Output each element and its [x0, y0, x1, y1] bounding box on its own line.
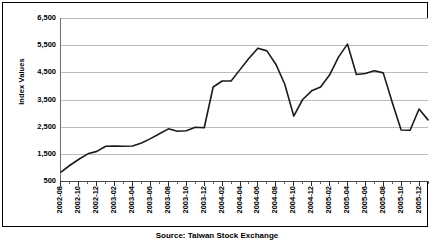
x-tick-mark — [213, 181, 214, 184]
x-tick-mark — [392, 181, 393, 184]
y-axis-tick-labels: 5001,5002,5003,5004,5005,5006,500 — [18, 14, 56, 185]
x-tick-mark — [374, 181, 375, 184]
series-polyline — [61, 44, 428, 172]
x-tick-label: 2003-02 — [110, 186, 118, 230]
x-tick-mark — [266, 181, 267, 184]
x-tick-label: 2002-10 — [74, 186, 82, 230]
x-tick-label: 2002-08 — [56, 186, 64, 230]
x-tick-label: 2003-04 — [128, 186, 136, 230]
y-tick-label: 500 — [18, 177, 56, 185]
x-tick-mark — [123, 181, 124, 184]
x-tick-mark — [231, 181, 232, 184]
x-tick-label: 2005-08 — [379, 186, 387, 230]
x-axis-tick-labels: 2002-082002-102002-122003-022003-042003-… — [60, 186, 428, 228]
x-tick-label: 2002-12 — [92, 186, 100, 230]
x-tick-label: 2005-06 — [361, 186, 369, 230]
y-tick-label: 4,500 — [18, 68, 56, 76]
x-tick-mark — [141, 181, 142, 184]
x-tick-mark — [320, 181, 321, 184]
x-tick-label: 2004-12 — [307, 186, 315, 230]
series-line-index-values — [61, 18, 428, 181]
x-tick-label: 2003-08 — [164, 186, 172, 230]
x-tick-mark — [195, 181, 196, 184]
x-tick-mark — [338, 181, 339, 184]
x-tick-label: 2005-02 — [325, 186, 333, 230]
x-tick-label: 2004-02 — [218, 186, 226, 230]
chart-figure: Index Values 5001,5002,5003,5004,5005,50… — [0, 0, 434, 241]
x-tick-label: 2003-12 — [200, 186, 208, 230]
y-tick-label: 3,500 — [18, 96, 56, 104]
x-tick-mark — [248, 181, 249, 184]
x-tick-label: 2004-06 — [253, 186, 261, 230]
x-tick-mark — [356, 181, 357, 184]
x-tick-mark — [410, 181, 411, 184]
x-tick-label: 2005-12 — [415, 186, 423, 230]
x-tick-mark — [159, 181, 160, 184]
x-tick-mark — [284, 181, 285, 184]
x-tick-label: 2005-04 — [343, 186, 351, 230]
x-tick-mark — [302, 181, 303, 184]
x-tick-label: 2004-04 — [236, 186, 244, 230]
y-tick-label: 2,500 — [18, 123, 56, 131]
x-tick-label: 2004-08 — [271, 186, 279, 230]
x-tick-mark — [428, 181, 429, 184]
x-tick-mark — [87, 181, 88, 184]
y-tick-label: 1,500 — [18, 150, 56, 158]
y-tick-label: 5,500 — [18, 41, 56, 49]
source-caption: Source: Taiwan Stock Exchange — [0, 231, 434, 241]
x-tick-label: 2004-10 — [289, 186, 297, 230]
x-tick-label: 2003-06 — [146, 186, 154, 230]
x-tick-label: 2005-10 — [397, 186, 405, 230]
x-tick-mark — [105, 181, 106, 184]
x-tick-mark — [69, 181, 70, 184]
x-tick-mark — [177, 181, 178, 184]
x-tick-label: 2003-10 — [182, 186, 190, 230]
plot-area — [60, 18, 428, 181]
y-tick-label: 6,500 — [18, 14, 56, 22]
